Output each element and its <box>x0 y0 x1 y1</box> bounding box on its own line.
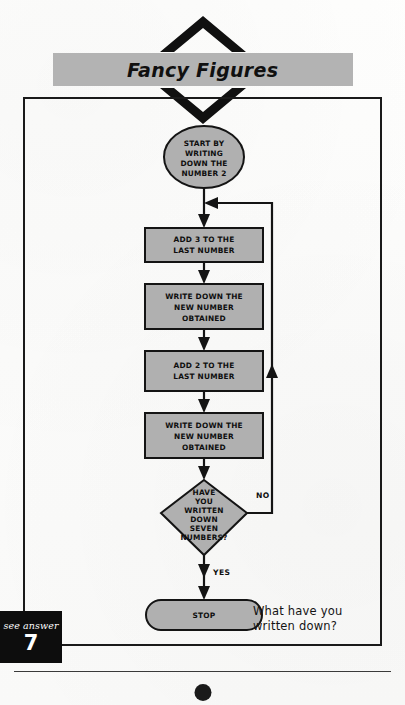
question-line-1: What have you <box>253 604 371 619</box>
see-answer-label: see answer <box>3 620 58 631</box>
question-line-2: written down? <box>253 619 371 634</box>
see-answer-number: 7 <box>24 632 39 654</box>
see-answer-tab[interactable]: see answer 7 <box>0 611 62 663</box>
title-banner: Fancy Figures <box>53 53 353 86</box>
footer-page-mark <box>194 684 211 701</box>
chevron-up-decoration <box>158 14 248 54</box>
content-frame <box>23 97 382 646</box>
footer-divider <box>14 671 391 672</box>
page-title: Fancy Figures <box>127 58 278 82</box>
question-text: What have you written down? <box>253 604 371 634</box>
